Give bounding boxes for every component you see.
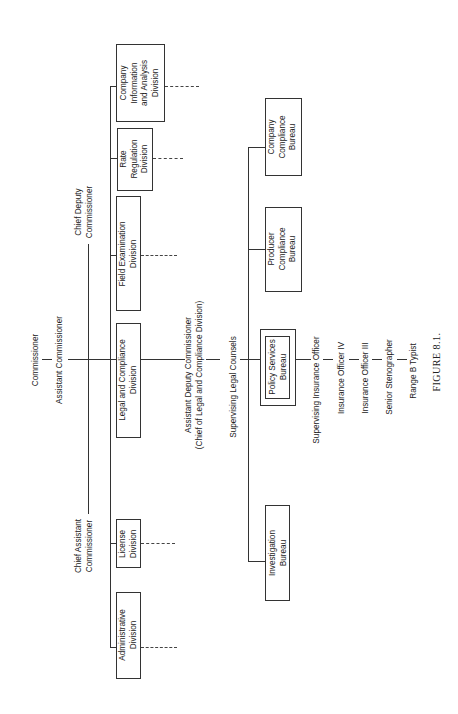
connector-line: [68, 359, 116, 360]
dashed-continuation: [141, 255, 177, 256]
division-label: Administrative Division: [118, 609, 139, 660]
supervising-legal-counsels-label: Supervising Legal Counsels: [229, 336, 240, 438]
division-label: License Division: [118, 530, 139, 559]
bureau-spine-line: [248, 147, 249, 562]
division-label: Field Examination Division: [118, 221, 139, 286]
staff-insurance-officer-iv: Insurance Officer IV: [337, 342, 348, 414]
connector-line: [296, 359, 311, 360]
dashed-continuation: [141, 543, 175, 544]
connector-line: [240, 359, 248, 360]
dashed-continuation: [153, 158, 183, 159]
division-label: Legal and Compliance Division: [118, 339, 139, 420]
division-label: Rate Regulation Division: [119, 139, 151, 178]
staff-range-b-typist: Range B Typist: [409, 343, 420, 398]
staff-senior-stenographer: Senior Stenographer: [385, 339, 396, 415]
connector-line: [206, 359, 220, 360]
division-label: Company Information and Analysis Divisio…: [119, 60, 161, 106]
bureau-label: Company Compliance Bureau: [267, 115, 299, 158]
connector-line: [110, 158, 117, 159]
assistant-deputy-commissioner-label: Assistant Deputy Commissioner (Chief of …: [184, 301, 205, 449]
connector-line: [248, 359, 260, 360]
dashed-continuation: [165, 86, 199, 87]
chief-deputy-commissioner-label: Chief Deputy Commissioner: [74, 186, 95, 238]
dashed-continuation: [141, 647, 177, 648]
connector-line: [248, 249, 265, 250]
figure-caption: FIGURE 8.1.: [432, 332, 443, 391]
connector-line: [372, 359, 382, 360]
staff-supervising-insurance-officer: Supervising Insurance Officer: [312, 336, 323, 443]
division-spine-line: [110, 86, 111, 648]
connector-line: [349, 359, 359, 360]
staff-insurance-officer-iii: Insurance Officer III: [361, 342, 372, 413]
connector-line: [323, 359, 333, 360]
bureau-label: Policy Services Bureau: [268, 339, 289, 395]
bureau-label: Investigation Bureau: [268, 530, 289, 576]
deputy-connector-line: [88, 244, 89, 514]
connector-line: [248, 561, 265, 562]
chief-assistant-commissioner-label: Chief Assistant Commissioner: [74, 519, 95, 573]
commissioner-label: Commissioner: [31, 334, 42, 386]
connector-line: [42, 359, 52, 360]
assistant-commissioner-label: Assistant Commissioner: [55, 316, 66, 404]
connector-line: [397, 359, 407, 360]
connector-line: [248, 147, 265, 148]
bureau-label: Producer Compliance Bureau: [267, 227, 299, 270]
connector-line: [141, 359, 185, 360]
